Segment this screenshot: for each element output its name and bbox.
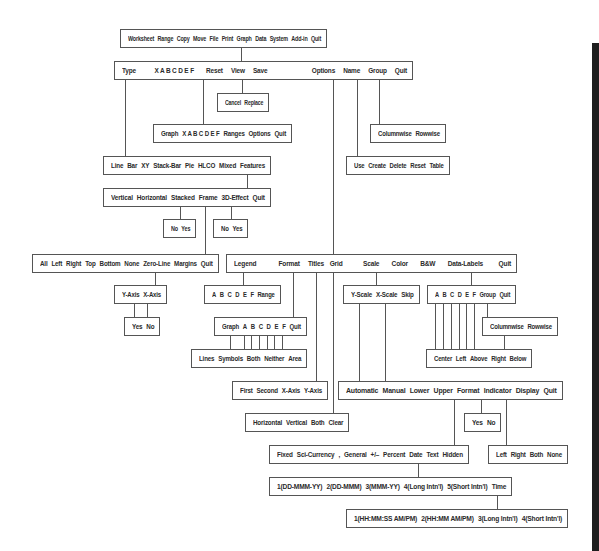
menu-item[interactable]: None: [124, 259, 139, 268]
menu-item[interactable]: Delete: [390, 161, 407, 170]
menu-item[interactable]: Range: [258, 290, 275, 299]
menu-item[interactable]: Both: [247, 354, 260, 363]
menu-item[interactable]: Legend: [234, 259, 256, 268]
menu-item[interactable]: Quit: [499, 290, 510, 299]
menu-item[interactable]: B: [443, 290, 447, 299]
menu-item[interactable]: Graph: [237, 34, 252, 43]
menu-item[interactable]: Print: [222, 34, 234, 43]
menu-item[interactable]: Upper: [434, 386, 453, 395]
menu-item[interactable]: No: [171, 224, 178, 233]
menu-item[interactable]: Bar: [127, 161, 137, 170]
menu-item[interactable]: Format: [278, 259, 299, 268]
menu-item[interactable]: C: [227, 290, 231, 299]
menu-item[interactable]: X-Axis: [143, 290, 161, 299]
menu-item[interactable]: Worksheet: [128, 34, 154, 43]
menu-item[interactable]: Lines: [199, 354, 214, 363]
menu-item[interactable]: No: [221, 224, 229, 233]
menu-item[interactable]: Rowwise: [527, 322, 552, 331]
menu-item[interactable]: X-Scale: [376, 290, 397, 299]
menu-item[interactable]: A: [243, 322, 247, 331]
menu-item[interactable]: A: [435, 290, 439, 299]
menu-item[interactable]: Mixed: [219, 161, 236, 170]
menu-item[interactable]: Horizontal: [253, 418, 282, 427]
menu-item[interactable]: Hidden: [442, 450, 463, 459]
menu-item[interactable]: E: [275, 322, 279, 331]
menu-item[interactable]: Name: [343, 66, 360, 75]
menu-item[interactable]: No: [146, 322, 154, 331]
menu-item[interactable]: No: [487, 418, 495, 427]
menu-item[interactable]: Pie: [185, 161, 194, 170]
menu-item[interactable]: Frame: [199, 193, 218, 202]
menu-item[interactable]: Color: [392, 259, 408, 268]
menu-item[interactable]: Graph: [222, 322, 239, 331]
menu-item[interactable]: Right: [66, 259, 81, 268]
menu-item[interactable]: Reset: [206, 66, 223, 75]
menu-item[interactable]: Sci-Currency: [297, 450, 335, 459]
menu-item[interactable]: B: [220, 290, 224, 299]
menu-item[interactable]: 3(Long Intn'l): [478, 514, 518, 523]
menu-item[interactable]: Margins: [174, 259, 197, 268]
menu-item[interactable]: ,: [338, 450, 340, 459]
menu-item[interactable]: F: [472, 290, 475, 299]
menu-item[interactable]: 3(MMM-YY): [366, 482, 400, 491]
menu-item[interactable]: 4(Short Intn'l): [522, 514, 563, 523]
menu-item[interactable]: Ranges: [223, 129, 244, 138]
menu-item[interactable]: Quit: [499, 259, 511, 268]
menu-item[interactable]: D: [235, 290, 239, 299]
menu-item[interactable]: 2(DD-MMM): [327, 482, 362, 491]
menu-item[interactable]: All: [40, 259, 48, 268]
menu-item[interactable]: System: [270, 34, 288, 43]
menu-item[interactable]: Vertical: [111, 193, 133, 202]
menu-item[interactable]: General: [344, 450, 367, 459]
menu-item[interactable]: Left: [456, 354, 466, 363]
menu-item[interactable]: Options: [312, 66, 335, 75]
menu-item[interactable]: Rowwise: [415, 129, 440, 138]
menu-item[interactable]: Y-Axis: [122, 290, 139, 299]
menu-item[interactable]: C: [450, 290, 454, 299]
menu-item[interactable]: Options: [248, 129, 270, 138]
menu-item[interactable]: Y-Axis: [304, 386, 322, 395]
menu-item[interactable]: Quit: [395, 66, 407, 75]
menu-item[interactable]: Titles: [308, 259, 324, 268]
menu-item[interactable]: Y-Scale: [351, 290, 372, 299]
menu-item[interactable]: Cancel: [225, 98, 241, 107]
menu-item[interactable]: 4(Long Intn'l): [404, 482, 443, 491]
menu-item[interactable]: Top: [85, 259, 95, 268]
menu-item[interactable]: Area: [288, 354, 301, 363]
menu-item[interactable]: E: [243, 290, 247, 299]
menu-item[interactable]: Manual: [383, 386, 406, 395]
menu-item[interactable]: Quit: [274, 129, 286, 138]
menu-item[interactable]: File: [210, 34, 219, 43]
menu-item[interactable]: Yes: [472, 418, 483, 427]
menu-item[interactable]: Time: [492, 482, 507, 491]
menu-item[interactable]: Horizontal: [137, 193, 167, 202]
menu-item[interactable]: Scale: [363, 259, 379, 268]
menu-item[interactable]: Below: [509, 354, 526, 363]
menu-item[interactable]: XY: [141, 161, 149, 170]
menu-item[interactable]: Symbols: [218, 354, 243, 363]
menu-item[interactable]: F: [250, 290, 253, 299]
menu-item[interactable]: Quit: [311, 34, 321, 43]
menu-item[interactable]: Save: [253, 66, 267, 75]
menu-item[interactable]: Stacked: [171, 193, 195, 202]
menu-item[interactable]: Quit: [289, 322, 300, 331]
menu-item[interactable]: A: [212, 290, 216, 299]
menu-item[interactable]: Left: [496, 450, 507, 459]
menu-item[interactable]: D: [267, 322, 271, 331]
menu-item[interactable]: Features: [240, 161, 265, 170]
menu-item[interactable]: HLCO: [198, 161, 215, 170]
menu-item[interactable]: Yes: [132, 322, 142, 331]
menu-item[interactable]: Replace: [244, 98, 263, 107]
menu-item[interactable]: Graph: [161, 129, 178, 138]
menu-item[interactable]: D: [458, 290, 462, 299]
menu-item[interactable]: C: [259, 322, 263, 331]
menu-item[interactable]: 3D-Effect: [221, 193, 248, 202]
menu-item[interactable]: Quit: [201, 259, 213, 268]
menu-item[interactable]: First: [240, 386, 253, 395]
menu-item[interactable]: Quit: [253, 193, 265, 202]
menu-item[interactable]: Table: [429, 161, 443, 170]
menu-item[interactable]: Right: [511, 450, 526, 459]
menu-item[interactable]: Create: [368, 161, 386, 170]
menu-item[interactable]: Indicator: [484, 386, 512, 395]
menu-item[interactable]: Above: [470, 354, 488, 363]
